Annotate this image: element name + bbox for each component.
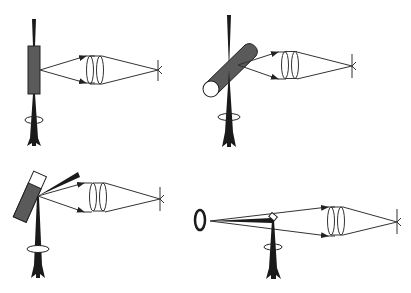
ray-arrow-icon	[38, 196, 84, 212]
ray-arrow-icon	[238, 65, 278, 79]
focus-point-icon	[352, 54, 356, 78]
ray-arrow-icon	[210, 221, 328, 236]
focus-point-icon	[397, 209, 401, 234]
ray-arrow-icon	[40, 70, 86, 83]
rotation-ring-icon	[27, 246, 49, 253]
panel-b	[200, 15, 356, 147]
panel-d	[195, 207, 401, 279]
lens-doublet-icon	[90, 183, 107, 211]
optical-diagram	[0, 0, 411, 293]
flat-plate-sample	[28, 46, 40, 94]
lens-doublet-icon	[328, 207, 345, 235]
ray-arrow-icon	[40, 56, 86, 70]
lens-doublet-icon	[87, 56, 104, 84]
laser-beam-top-icon	[32, 19, 36, 46]
panel-a	[25, 19, 162, 146]
ring-aperture-icon	[195, 210, 205, 230]
lens-doublet-icon	[282, 52, 299, 79]
laser-beam-bottom-icon	[27, 94, 41, 146]
laser-beam-bottom-icon	[31, 197, 45, 278]
focus-point-icon	[160, 187, 164, 211]
focus-point-icon	[158, 60, 162, 81]
panel-c	[13, 171, 164, 278]
